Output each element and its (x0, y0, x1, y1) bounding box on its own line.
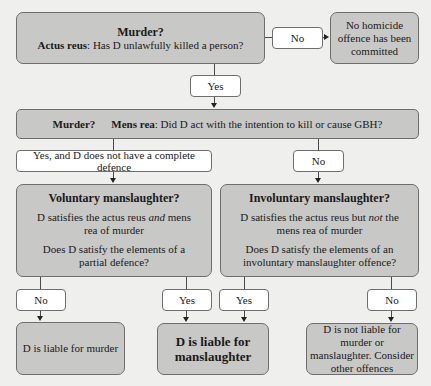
connector (214, 63, 215, 75)
question: : Has D unlawfully killed a person? (87, 39, 243, 51)
node-question: Murder?Mens rea: Did D act with the inte… (53, 118, 383, 131)
connector (318, 138, 319, 150)
involuntary-manslaughter-node: Involuntary manslaughter? D satisfies th… (220, 184, 419, 277)
node-title: Voluntary manslaughter? (48, 191, 179, 205)
question: : Did D act with the intention to kill o… (155, 118, 383, 130)
connector (244, 276, 245, 289)
liable-manslaughter-node: D is liable for manslaughter (157, 323, 269, 375)
edge-label-no: No (367, 289, 417, 311)
label: No (312, 155, 325, 167)
connector (391, 276, 392, 289)
liable-murder-node: D is liable for murder (16, 322, 125, 375)
node-title: Murder? (117, 25, 164, 39)
edge-label-no: No (16, 289, 66, 311)
edge-label-yes-no-defence: Yes, and D does not have a complete defe… (16, 150, 212, 172)
node-line: D satisfies the actus reus and mens rea … (29, 211, 199, 237)
actus-reus-node: Murder? Actus reus: Has D unlawfully kil… (16, 12, 265, 64)
arrow-icon (241, 317, 247, 322)
arrow-icon (110, 178, 116, 183)
connector (40, 276, 41, 289)
edge-label-yes: Yes (162, 289, 212, 311)
edge-label-yes: Yes (219, 289, 269, 311)
edge-label-yes: Yes (190, 75, 241, 97)
label: No (34, 294, 47, 306)
edge-label-no: No (293, 150, 344, 172)
node-title: Involuntary manslaughter? (249, 191, 390, 205)
text: D satisfies the actus reus but (240, 211, 368, 223)
arrow-icon (183, 317, 189, 322)
label: No (385, 294, 398, 306)
connector (264, 37, 272, 38)
node-text: D is liable for murder (23, 342, 118, 355)
label: No (291, 32, 304, 44)
text: D satisfies the actus reus (37, 211, 149, 223)
node-question: Does D satisfy the elements of a partial… (29, 243, 199, 269)
arrow-icon (388, 317, 394, 322)
node-question: Actus reus: Has D unlawfully killed a pe… (37, 39, 243, 52)
edge-label-no: No (272, 27, 323, 49)
arrow-icon (211, 103, 217, 108)
no-homicide-node: No homicide offence has been committed (330, 12, 419, 64)
arrow-icon (324, 34, 329, 40)
voluntary-manslaughter-node: Voluntary manslaughter? D satisfies the … (16, 184, 212, 277)
not-liable-node: D is not liable for murder or manslaught… (306, 323, 418, 375)
label: Mens rea (111, 118, 154, 130)
arrow-icon (37, 316, 43, 321)
node-text: D is liable for manslaughter (168, 334, 258, 364)
connector (186, 276, 187, 289)
label: Yes, and D does not have a complete defe… (17, 149, 211, 173)
emphasis: and (149, 211, 166, 223)
arrow-icon (315, 178, 321, 183)
node-question: Does D satisfy the elements of an involu… (225, 243, 414, 269)
node-text: No homicide offence has been committed (335, 19, 414, 58)
node-text: D is not liable for murder or manslaught… (309, 323, 415, 375)
node-line: D satisfies the actus reus but not the m… (225, 211, 414, 237)
mens-rea-node: Murder?Mens rea: Did D act with the inte… (16, 109, 419, 139)
label: Yes (236, 294, 252, 306)
title: Murder? (53, 118, 96, 130)
label: Yes (179, 294, 195, 306)
label: Yes (207, 80, 223, 92)
emphasis: not (369, 211, 383, 223)
label: Actus reus (37, 39, 87, 51)
